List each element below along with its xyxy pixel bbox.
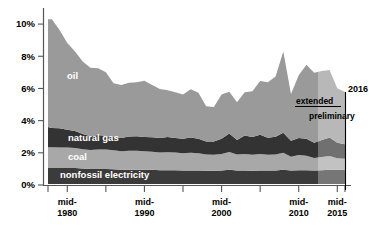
annotation-extended: extended: [296, 96, 333, 106]
y-tick-label: 8%: [21, 51, 35, 62]
x-tick-label-group: mid-2010: [289, 197, 309, 218]
x-tick-label-top: mid-: [212, 197, 231, 207]
annotation-year-2016: 2016: [348, 84, 368, 94]
x-tick-label-group: mid-1990: [134, 197, 154, 218]
series-label-coal: coal: [68, 151, 87, 162]
x-tick-label-top: mid-: [328, 197, 347, 207]
x-tick-label-top: mid-: [58, 197, 77, 207]
y-tick-label: 6%: [21, 83, 35, 94]
x-tick-label-bottom: 2015: [327, 208, 347, 218]
y-tick-label: 2%: [21, 147, 35, 158]
x-tick-label-group: mid-1980: [57, 197, 77, 218]
series-label-natural-gas: natural gas: [68, 132, 119, 143]
y-tick-label: 10%: [16, 18, 36, 29]
x-tick-label-group: mid-2000: [212, 197, 232, 218]
series-label-oil: oil: [67, 70, 78, 81]
y-tick-label: 4%: [21, 115, 35, 126]
x-tick-label-bottom: 1990: [134, 208, 154, 218]
x-tick-label-bottom: 2010: [289, 208, 309, 218]
annotation-preliminary: preliminary: [309, 111, 355, 121]
stacked-area-chart: 0%2%4%6%8%10% mid-1980mid-1990mid-2000mi…: [0, 0, 369, 230]
x-tick-label-group: mid-2015: [327, 197, 347, 218]
x-tick-label-bottom: 2000: [212, 208, 232, 218]
x-tick-label-top: mid-: [289, 197, 308, 207]
y-tick-label: 0%: [21, 179, 35, 190]
chart-figure: 0%2%4%6%8%10% mid-1980mid-1990mid-2000mi…: [0, 0, 369, 230]
x-tick-label-bottom: 1980: [57, 208, 77, 218]
x-tick-label-top: mid-: [135, 197, 154, 207]
series-label-nonfossil-electricity: nonfossil electricity: [60, 169, 150, 180]
